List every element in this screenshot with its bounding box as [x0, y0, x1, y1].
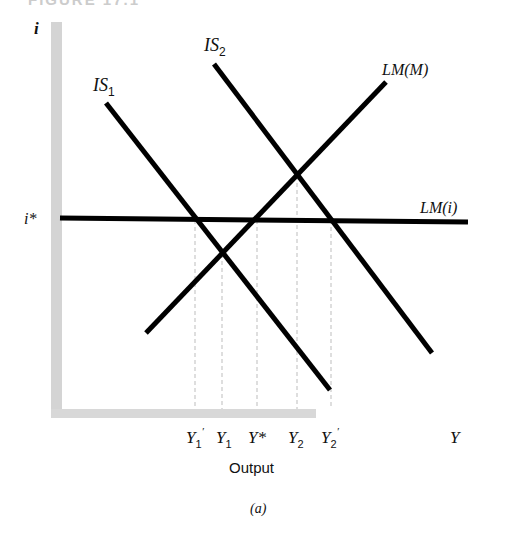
x-axis-title: Output [229, 459, 275, 476]
svg-text:Y1: Y1 [216, 428, 232, 450]
svg-text:Y2′: Y2′ [321, 425, 340, 450]
is1-label: IS1 [92, 75, 115, 99]
is2-label: IS2 [203, 35, 226, 59]
lm-i-curve [60, 218, 468, 222]
figure-caption: (a) [250, 501, 267, 517]
svg-text:Y1′: Y1′ [186, 425, 205, 450]
x-axis-end-label: Y [450, 428, 461, 447]
lm-m-label: LM(M) [381, 61, 428, 79]
x-tick-labels: Y1′ Y1 Y* Y2 Y2′ [186, 425, 340, 450]
svg-text:Y2: Y2 [288, 428, 304, 450]
lm-i-label: LM(i) [419, 199, 457, 217]
istar-label: i* [24, 210, 36, 227]
islm-diagram: i i* IS1 IS2 LM(M) LM(i) Y1′ Y1 Y* Y2 Y2… [0, 0, 508, 556]
y-axis-label: i [34, 19, 39, 38]
svg-text:Y*: Y* [248, 428, 266, 447]
x-axis [51, 409, 316, 418]
is2-curve [214, 64, 432, 353]
lm-m-curve [146, 82, 386, 333]
